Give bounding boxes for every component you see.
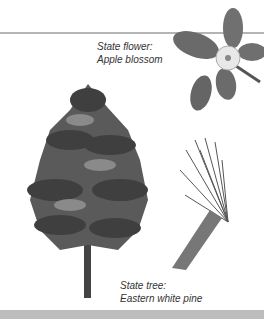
pine-cone-illustration	[172, 138, 228, 270]
state-flower-label: State flower:	[97, 40, 163, 53]
apple-blossom-illustration	[169, 8, 264, 113]
pine-tree-illustration	[27, 84, 148, 298]
state-tree-caption: State tree: Eastern white pine	[120, 279, 202, 305]
state-tree-name: Eastern white pine	[120, 292, 202, 305]
bottom-bar	[0, 310, 264, 319]
state-flower-name: Apple blossom	[97, 53, 163, 66]
state-tree-label: State tree:	[120, 279, 202, 292]
state-flower-caption: State flower: Apple blossom	[97, 40, 163, 66]
